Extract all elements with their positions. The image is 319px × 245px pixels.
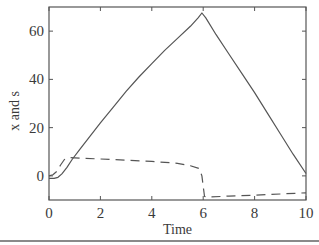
y-tick-label: 20 bbox=[29, 120, 44, 136]
bottom-divider bbox=[0, 240, 319, 242]
y-tick-label: 40 bbox=[29, 71, 44, 87]
plot-frame bbox=[49, 7, 306, 200]
series-group bbox=[49, 13, 306, 197]
x-axis-label: Time bbox=[163, 222, 192, 237]
line-chart: 0246810 0204060 Time x and s bbox=[0, 0, 319, 245]
series-line-x bbox=[49, 13, 306, 178]
x-tick-label: 10 bbox=[299, 205, 314, 221]
y-tick-label: 0 bbox=[37, 168, 45, 184]
x-axis-ticks: 0246810 bbox=[45, 7, 313, 221]
x-tick-label: 0 bbox=[45, 205, 53, 221]
y-tick-label: 60 bbox=[29, 23, 44, 39]
y-axis-label: x and s bbox=[7, 91, 22, 131]
x-tick-label: 4 bbox=[148, 205, 156, 221]
x-tick-label: 2 bbox=[97, 205, 105, 221]
x-tick-label: 6 bbox=[199, 205, 207, 221]
series-line-s bbox=[49, 158, 306, 198]
plot-area-border bbox=[49, 7, 306, 200]
x-tick-label: 8 bbox=[251, 205, 259, 221]
